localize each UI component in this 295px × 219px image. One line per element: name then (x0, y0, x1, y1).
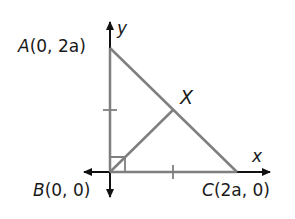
point-label-A: A(0, 2a) (18, 36, 86, 56)
point-label-C: C(2a, 0) (202, 180, 270, 200)
x-axis-label: x (252, 146, 262, 166)
point-label-B: B(0, 0) (33, 180, 90, 200)
point-label-X: X (180, 86, 193, 108)
diagram-canvas: y x A(0, 2a) B(0, 0) C(2a, 0) X (0, 0, 295, 219)
y-axis-label: y (117, 18, 127, 38)
segment-BX (110, 110, 173, 172)
